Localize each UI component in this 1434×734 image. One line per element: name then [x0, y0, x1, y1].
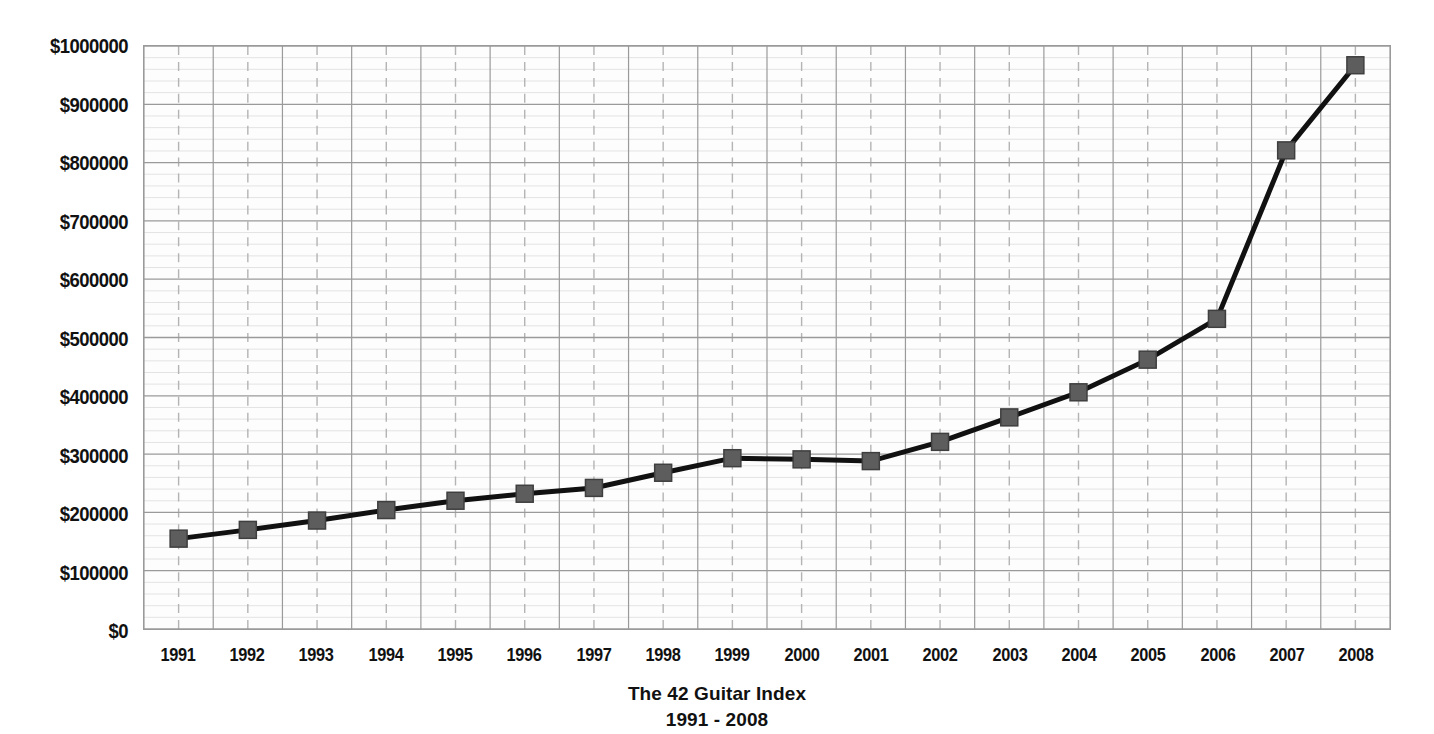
- chart-subtitle: 1991 - 2008: [0, 710, 1434, 729]
- x-axis-tick-2006: 2006: [1179, 645, 1256, 664]
- x-axis-tick-1993: 1993: [278, 645, 355, 664]
- x-axis-tick-1991: 1991: [139, 645, 216, 664]
- plot-area: [143, 45, 1391, 630]
- x-axis-tick-2008: 2008: [1318, 645, 1395, 664]
- x-axis-tick-2001: 2001: [832, 645, 909, 664]
- x-axis-tick-1995: 1995: [416, 645, 493, 664]
- y-axis-tick-300000: $300000: [0, 444, 128, 465]
- x-axis-tick-1996: 1996: [486, 645, 563, 664]
- x-axis-tick-2007: 2007: [1248, 645, 1325, 664]
- x-axis-tick-1992: 1992: [208, 645, 285, 664]
- x-axis-tick-1997: 1997: [555, 645, 632, 664]
- x-axis-tick-2005: 2005: [1110, 645, 1187, 664]
- y-axis-tick-800000: $800000: [0, 152, 128, 173]
- x-axis-tick-2004: 2004: [1040, 645, 1117, 664]
- data-series-line: [144, 46, 1390, 629]
- x-axis-tick-2000: 2000: [763, 645, 840, 664]
- y-axis-tick-700000: $700000: [0, 210, 128, 231]
- x-axis-tick-2002: 2002: [902, 645, 979, 664]
- x-axis-tick-2003: 2003: [971, 645, 1048, 664]
- y-axis-tick-100000: $100000: [0, 561, 128, 582]
- y-axis-tick-500000: $500000: [0, 327, 128, 348]
- y-axis-tick-900000: $900000: [0, 93, 128, 114]
- y-axis-tick-600000: $600000: [0, 269, 128, 290]
- x-axis-tick-1999: 1999: [694, 645, 771, 664]
- y-axis-tick-1000000: $1000000: [0, 35, 128, 56]
- chart-title: The 42 Guitar Index: [0, 684, 1434, 703]
- x-axis-tick-1998: 1998: [624, 645, 701, 664]
- y-axis-tick-0: $0: [0, 620, 128, 641]
- y-axis-tick-400000: $400000: [0, 386, 128, 407]
- x-axis-tick-1994: 1994: [347, 645, 424, 664]
- y-axis-tick-200000: $200000: [0, 503, 128, 524]
- guitar-index-chart: $0$100000$200000$300000$400000$500000$60…: [0, 0, 1434, 734]
